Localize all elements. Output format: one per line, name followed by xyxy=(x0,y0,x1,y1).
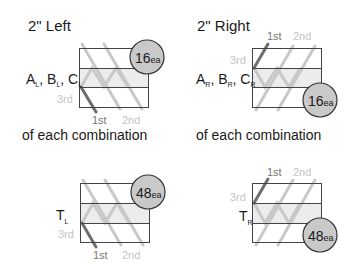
quantity-badge: 48ea xyxy=(131,175,165,209)
first-pass-label: 1st xyxy=(267,166,282,178)
second-pass-label: 2nd xyxy=(122,114,140,126)
panel-left-abc: 2" Left 16ea AL, BL, CL 3rd 1st 2nd of e… xyxy=(22,17,164,143)
first-pass-label: 1st xyxy=(92,114,107,126)
third-pass-label: 3rd xyxy=(230,54,246,66)
first-pass-line xyxy=(82,223,96,247)
third-pass-label: 3rd xyxy=(57,93,73,105)
quantity-badge: 16ea xyxy=(303,83,337,117)
part-label: TR xyxy=(239,208,253,226)
first-pass-line xyxy=(81,87,96,112)
second-pass-label: 2nd xyxy=(293,166,311,178)
panel-right-t: 48ea TR 3rd 1st 2nd xyxy=(230,166,337,252)
panel-title: 2" Right xyxy=(197,17,251,34)
part-label: TL xyxy=(56,207,69,225)
first-pass-line xyxy=(254,44,268,68)
first-pass-label: 1st xyxy=(93,249,108,261)
third-pass-label: 3rd xyxy=(58,228,74,240)
quantity-badge: 16ea xyxy=(130,40,164,74)
panel-title: 2" Left xyxy=(28,17,72,34)
first-pass-line xyxy=(254,179,268,203)
second-pass-label: 2nd xyxy=(293,30,311,42)
quantity-badge: 48ea xyxy=(303,218,337,252)
caption: of each combination xyxy=(196,127,321,143)
second-pass-label: 2nd xyxy=(122,249,140,261)
first-pass-label: 1st xyxy=(267,30,282,42)
part-labels: AL, BL, CL xyxy=(26,71,82,88)
third-pass-label: 3rd xyxy=(230,191,246,203)
diagram-canvas: 2" Left 16ea AL, BL, CL 3rd 1st 2nd of e… xyxy=(0,0,355,268)
caption: of each combination xyxy=(22,127,147,143)
panel-right-abc: 2" Right 16ea AR, BR, CR 3rd 1st 2nd of … xyxy=(196,17,337,143)
panel-left-t: 48ea TL 3rd 1st 2nd xyxy=(56,175,165,261)
part-labels: AR, BR, CR xyxy=(196,71,256,88)
